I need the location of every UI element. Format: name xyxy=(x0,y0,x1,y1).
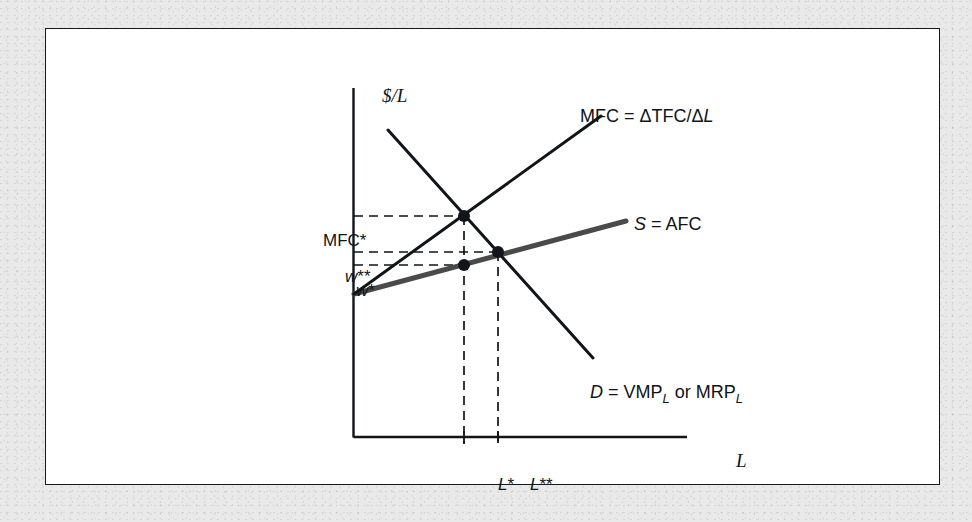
x-tick-label-l-star: L* xyxy=(498,476,514,493)
w-star-tail: * xyxy=(368,281,375,300)
demand-curve xyxy=(388,130,593,358)
w-star-head: w xyxy=(356,281,368,300)
figure-frame: $/L L MFC = ΔTFC/ΔL S = AFC D = VMPL or … xyxy=(45,28,940,485)
l-star-tail: * xyxy=(507,475,514,494)
figure-page: $/L L MFC = ΔTFC/ΔL S = AFC D = VMPL or … xyxy=(0,0,972,522)
demand-label-sub2: L xyxy=(736,391,743,406)
x-axis-label: L xyxy=(736,451,747,470)
demand-label-sub1: L xyxy=(663,391,670,406)
mfc-label-tail: L xyxy=(704,106,714,126)
supply-label-head: S xyxy=(634,214,646,234)
mfc-curve xyxy=(354,116,601,294)
demand-label-head: D xyxy=(590,382,603,402)
supply-label-tail: = AFC xyxy=(646,214,702,234)
monopsony-wage-point xyxy=(458,259,470,271)
demand-curve-label: D = VMPL or MRPL xyxy=(590,383,743,401)
x-tick-label-l-starstar: L** xyxy=(530,476,553,493)
y-tick-label-mfc-star: MFC* xyxy=(323,232,366,249)
monopsony-mfc-point xyxy=(458,210,470,222)
supply-curve-label: S = AFC xyxy=(634,215,702,233)
y-axis-label: $/L xyxy=(382,86,407,105)
mfc-label-head: MFC = ΔTFC/Δ xyxy=(580,106,704,126)
mfc-curve-label: MFC = ΔTFC/ΔL xyxy=(580,107,714,125)
supply-curve xyxy=(354,221,626,294)
economics-plot xyxy=(46,29,941,486)
l-starstar-tail: ** xyxy=(539,475,552,494)
competitive-equilibrium-point xyxy=(492,246,504,258)
demand-label-conj: or MRP xyxy=(670,382,736,402)
demand-label-mid: = VMP xyxy=(603,382,663,402)
y-tick-label-w-star: w* xyxy=(356,282,375,299)
